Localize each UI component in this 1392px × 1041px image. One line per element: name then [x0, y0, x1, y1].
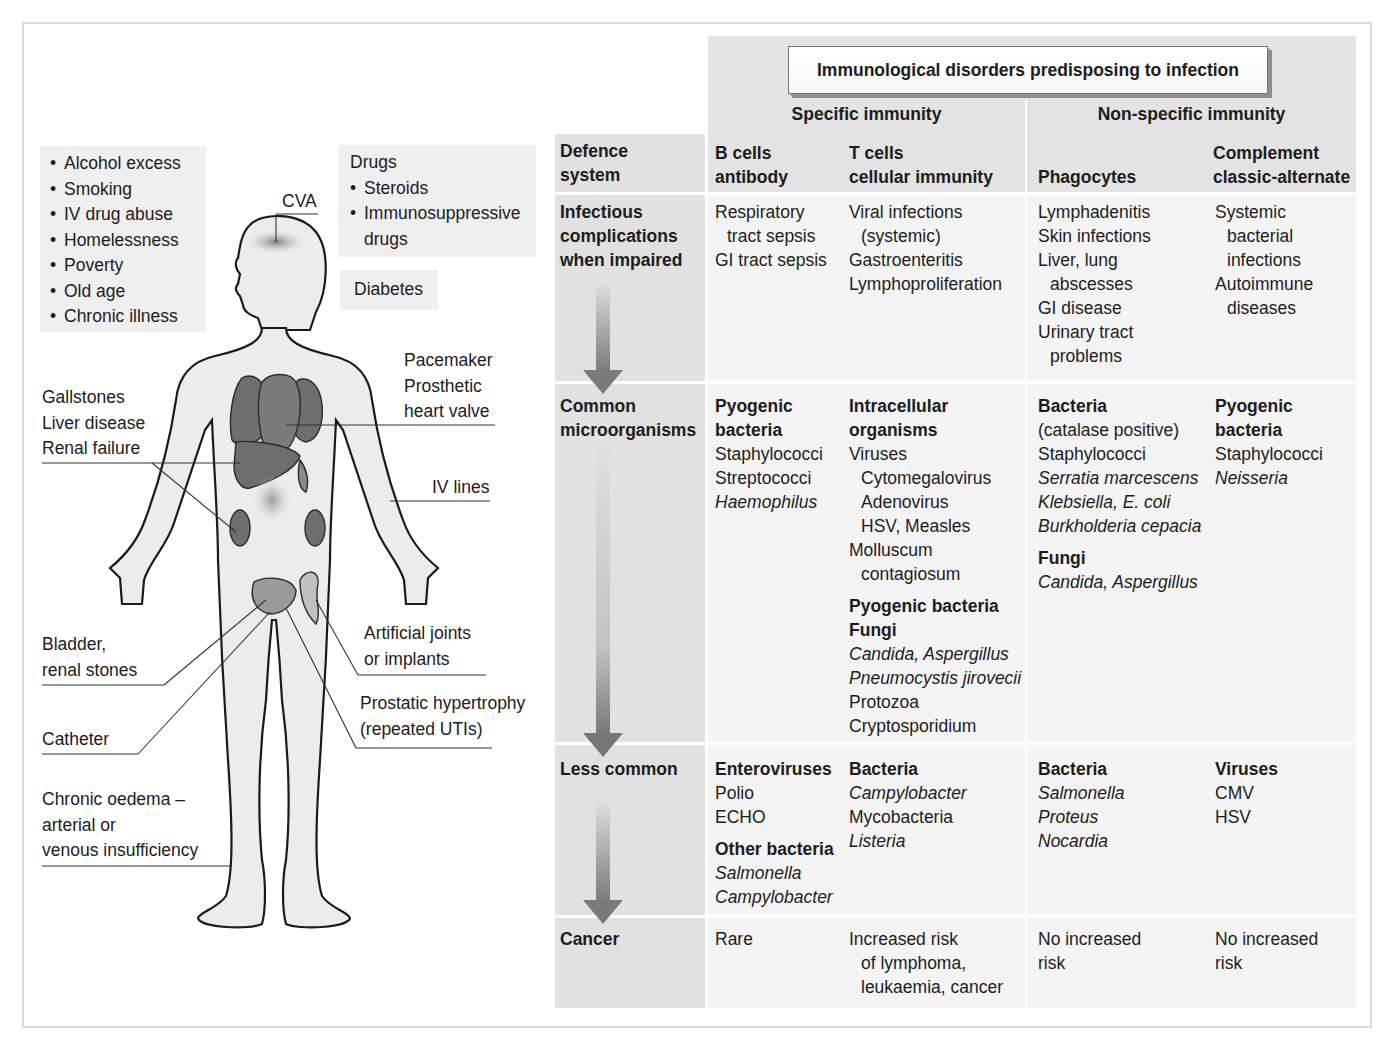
oedema-label-1: Chronic oedema –	[42, 787, 198, 813]
cell-common-bcells: Pyogenic bacteria Staphylococci Streptoc…	[715, 394, 823, 514]
oedema-label-2: arterial or	[42, 813, 198, 839]
organ-failure-labels: Gallstones Liver disease Renal failure	[42, 385, 145, 462]
risk-factors-list: Alcohol excess Smoking IV drug abuse Hom…	[50, 151, 181, 330]
row-head-less-common: Less common	[560, 757, 678, 781]
cell-cancer-phagocytes: No increased risk	[1038, 927, 1141, 975]
specific-immunity-heading: Specific immunity	[708, 104, 1025, 125]
oedema-label-3: venous insufficiency	[42, 838, 198, 864]
artificial-joints-label: Artificial joints	[364, 621, 471, 647]
row-head-cancer: Cancer	[560, 927, 619, 951]
drug-item-continued: drugs	[350, 227, 521, 253]
cell-common-complement: Pyogenic bacteria Staphylococci Neisseri…	[1215, 394, 1323, 490]
iv-lines-label: IV lines	[432, 475, 489, 501]
nonspecific-immunity-heading: Non-specific immunity	[1027, 104, 1356, 125]
prostatic-label: Prostatic hypertrophy	[360, 691, 525, 717]
gallstones-label: Gallstones	[42, 385, 145, 411]
cell-infectious-complement: Systemic bacterial infections Autoimmune…	[1215, 200, 1313, 320]
drug-item: Immunosuppressive	[350, 201, 521, 227]
risk-factor-item: Poverty	[50, 253, 181, 279]
risk-factor-item: IV drug abuse	[50, 202, 181, 228]
cell-common-phagocytes: Bacteria (catalase positive) Staphylococ…	[1038, 394, 1201, 594]
diabetes-label: Diabetes	[354, 277, 423, 303]
table-title: Immunological disorders predisposing to …	[788, 46, 1268, 94]
cardiac-device-labels: Pacemaker Prosthetic heart valve	[404, 348, 493, 425]
prosthetic-label: Prosthetic	[404, 374, 493, 400]
cell-cancer-complement: No increased risk	[1215, 927, 1318, 975]
bladder-labels: Bladder, renal stones	[42, 632, 137, 683]
column-header-bcells: B cells antibody	[715, 141, 788, 189]
bladder-label: Bladder,	[42, 632, 137, 658]
row-head-infectious: Infectious complications when impaired	[560, 200, 683, 272]
utis-label: (repeated UTIs)	[360, 717, 525, 743]
cell-less-common-phagocytes: Bacteria Salmonella Proteus Nocardia	[1038, 757, 1125, 853]
drug-item: Steroids	[350, 176, 521, 202]
severity-arrow-icon	[581, 800, 625, 924]
risk-factor-item: Smoking	[50, 177, 181, 203]
column-header-complement: Complement classic-alternate	[1213, 141, 1350, 189]
cell-less-common-complement: Viruses CMV HSV	[1215, 757, 1278, 829]
cell-infectious-bcells: Respiratory tract sepsis GI tract sepsis	[715, 200, 827, 272]
drugs-heading: Drugs	[350, 150, 521, 176]
prostatic-labels: Prostatic hypertrophy (repeated UTIs)	[360, 691, 525, 742]
pacemaker-label: Pacemaker	[404, 348, 493, 374]
risk-factor-item: Old age	[50, 279, 181, 305]
severity-arrow-icon	[581, 445, 625, 757]
severity-arrow-icon	[581, 282, 625, 394]
cva-label: CVA	[282, 189, 317, 215]
cell-less-common-bcells: Enteroviruses Polio ECHO Other bacteria …	[715, 757, 834, 909]
risk-factor-item: Alcohol excess	[50, 151, 181, 177]
implants-label: or implants	[364, 647, 471, 673]
cell-less-common-tcells: Bacteria Campylobacter Mycobacteria List…	[849, 757, 967, 853]
column-header-defence: Defence system	[560, 139, 628, 187]
cell-common-tcells: Intracellular organisms Viruses Cytomega…	[849, 394, 1021, 738]
renal-failure-label: Renal failure	[42, 436, 145, 462]
column-header-tcells: T cells cellular immunity	[849, 141, 993, 189]
cell-cancer-tcells: Increased risk of lymphoma, leukaemia, c…	[849, 927, 1003, 999]
column-header-phagocytes: Phagocytes	[1038, 165, 1136, 189]
row-head-common: Common microorganisms	[560, 394, 696, 442]
renal-stones-label: renal stones	[42, 658, 137, 684]
cell-cancer-bcells: Rare	[715, 927, 753, 951]
heart-valve-label: heart valve	[404, 399, 493, 425]
drugs-list: Drugs Steroids Immunosuppressive drugs	[350, 150, 521, 252]
cell-infectious-tcells: Viral infections (systemic) Gastroenteri…	[849, 200, 1002, 296]
risk-factor-item: Chronic illness	[50, 304, 181, 330]
oedema-labels: Chronic oedema – arterial or venous insu…	[42, 787, 198, 864]
joints-labels: Artificial joints or implants	[364, 621, 471, 672]
catheter-label: Catheter	[42, 727, 109, 753]
risk-factor-item: Homelessness	[50, 228, 181, 254]
cell-infectious-phagocytes: Lymphadenitis Skin infections Liver, lun…	[1038, 200, 1151, 368]
liver-disease-label: Liver disease	[42, 411, 145, 437]
